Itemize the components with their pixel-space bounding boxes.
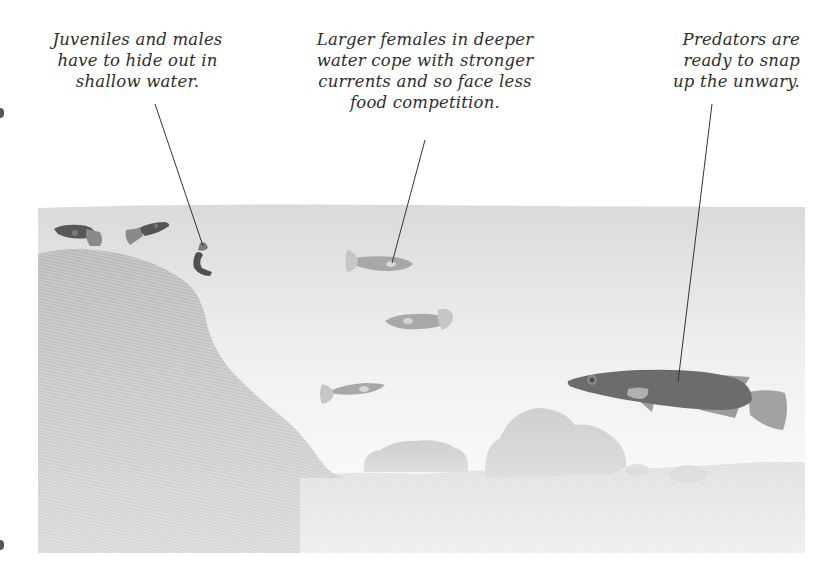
caption-line: up the unwary. (620, 71, 800, 92)
caption-line: currents and so face less (305, 71, 545, 92)
pebble (625, 464, 649, 476)
caption-line: ready to snap (620, 50, 800, 71)
caption-line: food competition. (305, 92, 545, 113)
caption-line: water cope with stronger (305, 50, 545, 71)
caption-line: Juveniles and males (30, 29, 245, 50)
caption-females: Larger females in deeper water cope with… (305, 29, 545, 113)
caption-line: have to hide out in (30, 50, 245, 71)
caption-line: Larger females in deeper (305, 29, 545, 50)
caption-line: Predators are (620, 29, 800, 50)
caption-juveniles: Juveniles and males have to hide out in … (30, 29, 245, 92)
caption-line: shallow water. (30, 71, 245, 92)
caption-predators: Predators are ready to snap up the unwar… (620, 29, 800, 92)
pebble (670, 465, 706, 483)
